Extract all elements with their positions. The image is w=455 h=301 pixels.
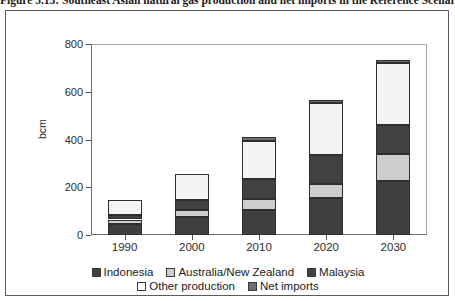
y-tick-label: 200	[41, 181, 83, 193]
legend-label: Indonesia	[104, 266, 154, 278]
bar-2000	[175, 174, 209, 235]
bar-segment-other-production	[309, 103, 343, 156]
chart-legend: IndonesiaAustralia/New ZealandMalaysiaOt…	[6, 265, 450, 293]
legend-label: Other production	[149, 280, 235, 292]
x-tick-label: 2010	[246, 241, 272, 253]
bar-segment-other-production	[242, 141, 276, 179]
x-tick-mark	[125, 235, 126, 240]
legend-row: Other productionNet imports	[6, 279, 450, 293]
bar-segment-australia-new-zealand	[108, 220, 142, 224]
bar-segment-australia-new-zealand	[376, 154, 410, 181]
y-tick-mark	[86, 235, 91, 236]
y-tick-mark	[86, 140, 91, 141]
legend-swatch-icon	[307, 268, 316, 277]
bar-segment-indonesia	[175, 217, 209, 235]
x-tick-label: 1990	[112, 241, 138, 253]
y-tick-label: 600	[41, 86, 83, 98]
x-tick-mark	[326, 235, 327, 240]
bar-segment-indonesia	[309, 198, 343, 235]
y-tick-mark	[86, 187, 91, 188]
legend-item-australia-new-zealand: Australia/New Zealand	[166, 266, 294, 278]
legend-item-other-production: Other production	[137, 280, 235, 292]
chart-screenshot: Figure 5.13: Southeast Asian natural gas…	[0, 0, 455, 301]
x-tick-mark	[259, 235, 260, 240]
legend-row: IndonesiaAustralia/New ZealandMalaysia	[6, 265, 450, 279]
legend-swatch-icon	[248, 282, 257, 291]
bar-segment-malaysia	[242, 179, 276, 199]
bar-segment-indonesia	[108, 224, 142, 235]
bar-segment-indonesia	[242, 210, 276, 235]
bar-segment-other-production	[376, 63, 410, 125]
bar-segment-malaysia	[376, 125, 410, 154]
legend-item-indonesia: Indonesia	[92, 266, 154, 278]
bar-segment-malaysia	[309, 155, 343, 184]
bar-segment-australia-new-zealand	[175, 210, 209, 217]
legend-label: Net imports	[260, 280, 319, 292]
bar-segment-malaysia	[108, 215, 142, 220]
bar-segment-other-production	[108, 200, 142, 214]
legend-label: Australia/New Zealand	[178, 266, 294, 278]
figure-title-text: Figure 5.13: Southeast Asian natural gas…	[0, 0, 455, 6]
legend-swatch-icon	[166, 268, 175, 277]
x-tick-mark	[393, 235, 394, 240]
figure-frame: bcm 0200400600800 19902000201020202030 I…	[5, 10, 449, 296]
bar-segment-australia-new-zealand	[309, 184, 343, 198]
legend-item-net-imports: Net imports	[248, 280, 319, 292]
bar-segment-other-production	[175, 174, 209, 200]
x-tick-label: 2030	[381, 241, 407, 253]
bar-2020	[309, 100, 343, 235]
y-tick-label: 0	[41, 229, 83, 241]
bar-segment-net-imports	[309, 100, 343, 102]
bar-1990	[108, 200, 142, 235]
legend-swatch-icon	[92, 268, 101, 277]
legend-item-malaysia: Malaysia	[307, 266, 364, 278]
bar-segment-australia-new-zealand	[242, 199, 276, 210]
figure-title-clipped: Figure 5.13: Southeast Asian natural gas…	[0, 0, 455, 10]
legend-swatch-icon	[137, 282, 146, 291]
bar-segment-malaysia	[175, 200, 209, 210]
x-tick-mark	[192, 235, 193, 240]
legend-label: Malaysia	[319, 266, 364, 278]
bar-2030	[376, 60, 410, 235]
y-tick-mark	[86, 44, 91, 45]
x-tick-label: 2020	[313, 241, 339, 253]
y-tick-mark	[86, 92, 91, 93]
plot-area: 0200400600800 19902000201020202030	[91, 44, 427, 235]
y-tick-label: 400	[41, 134, 83, 146]
bar-segment-indonesia	[376, 181, 410, 235]
bar-segment-net-imports	[242, 137, 276, 141]
bar-2010	[242, 137, 276, 235]
y-tick-label: 800	[41, 38, 83, 50]
x-tick-label: 2000	[179, 241, 205, 253]
bar-segment-net-imports	[376, 60, 410, 64]
